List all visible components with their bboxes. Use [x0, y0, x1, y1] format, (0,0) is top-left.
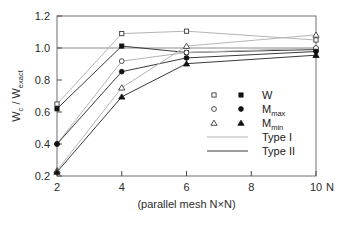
x-axis-symbol: N [326, 181, 334, 193]
legend-label-W: W [262, 89, 273, 101]
y-tick-label-0.2: 0.2 [35, 170, 50, 182]
y-axis-title-group: Wc / Wexact [10, 69, 25, 122]
data-point-marker-open-circle [212, 107, 217, 112]
data-point-marker-open-square [184, 29, 188, 33]
chart-figure: 0.20.40.60.81.01.2246810N(parallel mesh … [0, 0, 346, 226]
chart-canvas: 0.20.40.60.81.01.2246810N(parallel mesh … [0, 0, 346, 226]
data-point-marker-open-square [212, 93, 216, 97]
x-tick-label-10: 10 [310, 181, 322, 193]
figure-caption-artifact [4, 214, 124, 222]
legend-label-type-i: Type I [262, 131, 292, 143]
y-tick-label-0.6: 0.6 [35, 106, 50, 118]
data-point-marker-open-circle [119, 59, 124, 64]
data-point-marker-open-circle [184, 50, 189, 55]
y-tick-label-1.0: 1.0 [35, 42, 50, 54]
data-point-marker-filled-circle [184, 56, 189, 61]
x-tick-label-6: 6 [183, 181, 189, 193]
data-point-marker-filled-circle [239, 107, 244, 112]
y-tick-label-0.4: 0.4 [35, 138, 50, 150]
data-point-marker-filled-square [120, 44, 124, 48]
x-tick-label-2: 2 [54, 181, 60, 193]
y-axis-title: Wc / Wexact [10, 69, 25, 122]
y-tick-label-1.2: 1.2 [35, 10, 50, 22]
x-axis-title: (parallel mesh N×N) [137, 198, 235, 210]
data-point-marker-filled-square [239, 93, 243, 97]
y-tick-label-0.8: 0.8 [35, 74, 50, 86]
legend-label-type-ii: Type II [262, 145, 295, 157]
data-point-marker-open-square [314, 38, 318, 42]
data-point-marker-filled-circle [55, 142, 60, 147]
data-point-marker-filled-square [55, 107, 59, 111]
data-point-marker-open-square [55, 102, 59, 106]
x-axis-title-group: (parallel mesh N×N) [137, 198, 235, 210]
data-point-marker-open-square [120, 32, 124, 36]
data-point-marker-filled-circle [119, 69, 124, 74]
x-tick-label-8: 8 [248, 181, 254, 193]
x-tick-label-4: 4 [119, 181, 125, 193]
